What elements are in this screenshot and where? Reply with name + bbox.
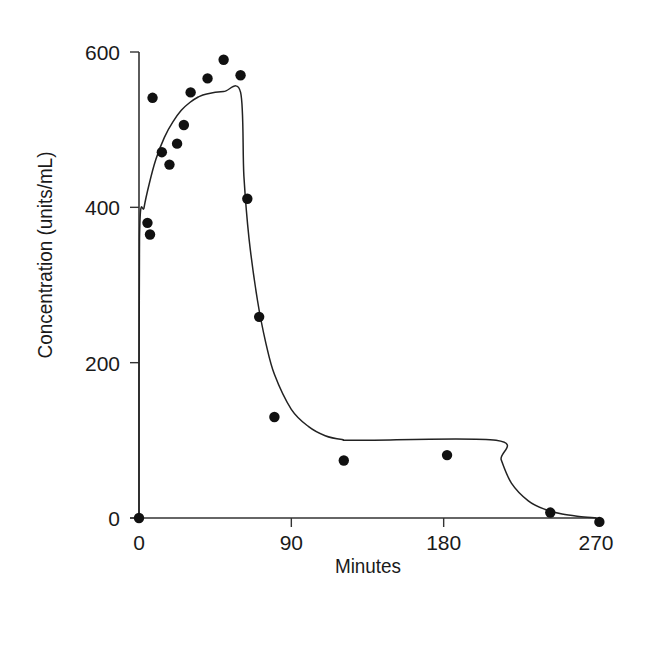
data-point — [545, 507, 555, 517]
data-points — [134, 55, 605, 528]
axes: 0200400600 090180270 — [85, 41, 614, 554]
y-axis-title: Concentration (units/mL) — [33, 152, 56, 359]
x-tick-label: 180 — [426, 531, 461, 554]
y-tick-label: 200 — [85, 352, 120, 375]
data-point — [339, 455, 349, 465]
data-point — [179, 120, 189, 130]
model-fit-curve — [139, 86, 596, 518]
y-tick-label: 0 — [108, 507, 120, 530]
concentration-chart: 0200400600 090180270 Minutes Concentrati… — [0, 0, 651, 645]
data-point — [157, 147, 167, 157]
data-point — [218, 55, 228, 65]
x-ticks: 090180270 — [133, 518, 613, 554]
data-point — [242, 194, 252, 204]
data-point — [164, 159, 174, 169]
x-tick-label: 270 — [578, 531, 613, 554]
y-ticks: 0200400600 — [85, 41, 139, 530]
data-point — [235, 70, 245, 80]
data-point — [594, 517, 604, 527]
data-point — [134, 513, 144, 523]
x-tick-label: 90 — [280, 531, 303, 554]
data-point — [142, 218, 152, 228]
data-point — [202, 73, 212, 83]
x-axis-title: Minutes — [335, 554, 401, 577]
y-tick-label: 600 — [85, 41, 120, 64]
x-tick-label: 0 — [133, 531, 145, 554]
data-point — [185, 87, 195, 97]
data-point — [147, 93, 157, 103]
data-point — [442, 450, 452, 460]
data-point — [172, 138, 182, 148]
y-tick-label: 400 — [85, 196, 120, 219]
data-point — [145, 229, 155, 239]
data-point — [254, 312, 264, 322]
data-point — [269, 412, 279, 422]
